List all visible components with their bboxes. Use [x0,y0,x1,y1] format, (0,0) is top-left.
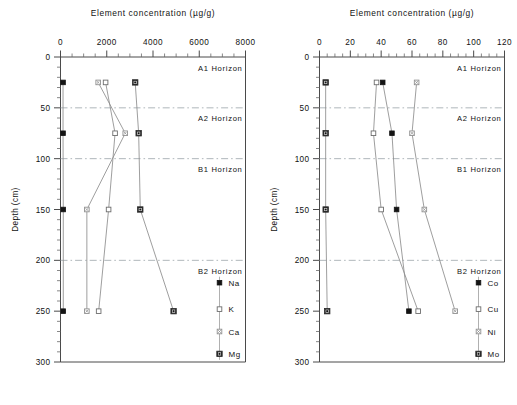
legend-label-Co: Co [488,279,499,288]
legend-marker-Mg [217,351,222,356]
x-axis-tick-label: 120 [497,38,512,47]
legend-label-Na: Na [229,279,240,288]
data-point-Cu-150cm [379,207,384,212]
horizon-label: B2 Horizon [198,267,243,276]
data-point-Mg-25cm [132,80,137,85]
x-axis-tick-label: 100 [466,38,481,47]
y-axis-tick-label: 200 [295,256,310,265]
data-point-Mo-250cm [325,308,330,313]
horizon-label: B1 Horizon [198,165,243,174]
data-point-Ni-250cm [453,309,458,314]
y-axis-tick-label: 300 [36,358,51,367]
data-point-Ca-150cm [85,207,90,212]
x-axis-tick-label: 40 [376,38,386,47]
y-axis-tick-label: 0 [46,53,51,62]
y-axis-tick-label: 150 [36,206,51,215]
horizon-label: B1 Horizon [457,165,502,174]
x-axis-title: Element concentration (µg/g) [91,8,216,18]
legend-marker-Ca [217,329,222,334]
data-point-K-75cm [113,131,118,136]
horizon-label: A2 Horizon [198,114,243,123]
data-point-K-150cm [106,207,111,212]
x-axis-tick-label: 80 [438,38,448,47]
legend-marker-Cu [476,307,481,312]
series-line-Mo [326,82,328,311]
y-axis-tick-label: 300 [295,358,310,367]
data-point-Cu-25cm [374,80,379,85]
y-axis-tick-label: 50 [41,104,51,113]
data-point-Na-75cm [61,131,66,136]
x-axis-title: Element concentration (µg/g) [350,8,475,18]
data-point-Na-150cm [61,207,66,212]
data-point-Na-25cm [61,80,66,85]
data-point-Co-150cm [394,207,399,212]
x-axis-tick-label: 2000 [97,38,117,47]
series-line-K [99,82,115,311]
data-point-Mo-25cm [323,80,328,85]
x-axis-tick-label: 8000 [236,38,256,47]
y-axis-tick-label: 250 [295,307,310,316]
x-axis-tick-label: 0 [317,38,322,47]
y-axis-title: Depth (cm) [270,187,279,232]
x-axis-tick-label: 0 [58,38,63,47]
data-point-Ni-75cm [410,131,415,136]
x-axis-tick-label: 60 [407,38,417,47]
chart-svg-trace-elements: Element concentration (µg/g)020406080100… [259,0,517,405]
y-axis-tick-label: 50 [300,104,310,113]
series-line-Ni [412,82,455,311]
y-axis-tick-label: 200 [36,256,51,265]
data-point-Ni-25cm [414,80,419,85]
horizon-label: A2 Horizon [457,114,502,123]
legend-label-Cu: Cu [488,305,499,314]
horizon-label: A1 Horizon [198,64,243,73]
chart-svg-major-elements: Element concentration (µg/g)020004000600… [0,0,258,405]
data-point-Co-25cm [380,80,385,85]
data-point-Mo-150cm [323,207,328,212]
data-point-Mg-75cm [136,131,141,136]
series-line-Ca [87,82,125,311]
y-axis-tick-label: 150 [295,206,310,215]
legend-label-Mg: Mg [229,350,241,359]
legend-marker-Mo [476,351,481,356]
series-markers-Mg [132,80,176,314]
series-line-Co [383,82,409,311]
x-axis-tick-label: 6000 [189,38,209,47]
y-axis-tick-label: 100 [295,155,310,164]
series-markers-Ca [85,80,128,313]
data-point-Cu-250cm [416,309,421,314]
figure-root: Element concentration (µg/g)020004000600… [0,0,517,405]
series-markers-Ni [410,80,458,313]
legend-label-Ca: Ca [229,328,240,337]
data-point-Cu-75cm [371,131,376,136]
legend-marker-Co [476,280,481,285]
chart-panel-major-elements: Element concentration (µg/g)020004000600… [0,0,258,405]
legend-marker-K [217,307,222,312]
legend-marker-Ni [476,329,481,334]
legend-marker-Na [217,280,222,285]
data-point-Na-250cm [61,309,66,314]
x-axis-tick-label: 20 [345,38,355,47]
plot-area-trace-elements: Element concentration (µg/g)020406080100… [259,0,517,405]
y-axis-tick-label: 100 [36,155,51,164]
data-point-Ca-75cm [123,131,128,136]
y-axis-tick-label: 0 [305,53,310,62]
plot-area-major-elements: Element concentration (µg/g)020004000600… [0,0,258,405]
data-point-Mo-75cm [323,131,328,136]
horizon-label: B2 Horizon [457,267,502,276]
series-line-Mg [135,82,173,311]
horizon-label: A1 Horizon [457,64,502,73]
legend-label-Mo: Mo [488,350,500,359]
data-point-K-25cm [103,80,108,85]
data-point-Co-250cm [407,309,412,314]
x-axis-tick-label: 4000 [143,38,163,47]
y-axis-title: Depth (cm) [11,187,20,232]
series-markers-K [96,80,117,313]
chart-panel-trace-elements: Element concentration (µg/g)020406080100… [259,0,517,405]
data-point-Ca-25cm [96,80,101,85]
data-point-Ni-150cm [422,207,427,212]
data-point-K-250cm [96,309,101,314]
data-point-Mg-250cm [171,308,176,313]
y-axis-tick-label: 250 [36,307,51,316]
legend-label-Ni: Ni [488,328,497,337]
legend-label-K: K [229,305,235,314]
